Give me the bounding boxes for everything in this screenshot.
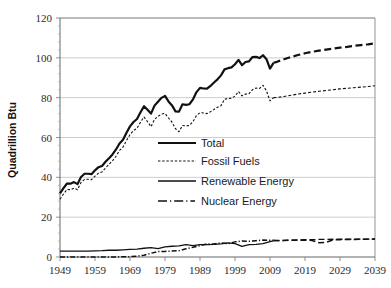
x-tick-label: 1999 [224, 264, 247, 276]
y-axis-tick-labels: 020406080100120 [36, 12, 53, 263]
y-tick-label: 100 [36, 52, 53, 64]
x-tick-label: 1969 [119, 264, 142, 276]
series-line-total-projected [274, 43, 376, 63]
x-tick-label: 1949 [49, 264, 72, 276]
legend-label-nuclear-energy: Nuclear Energy [201, 195, 277, 207]
x-tick-label: 2019 [294, 264, 317, 276]
y-axis-ticks [56, 18, 60, 257]
y-tick-label: 80 [41, 92, 53, 104]
data-series-group [60, 43, 375, 257]
legend: TotalFossil FuelsRenewable EnergyNuclear… [158, 137, 294, 207]
x-tick-label: 2039 [364, 264, 387, 276]
x-axis-tick-labels: 1949195919691979198919992009201920292039 [49, 264, 387, 276]
chart-container: 020406080100120 194919591969197919891999… [0, 0, 391, 288]
series-line-nuclear-energy-historical [60, 240, 274, 257]
series-line-renewable-energy-historical [60, 241, 274, 251]
x-tick-label: 2009 [259, 264, 282, 276]
y-tick-label: 20 [41, 211, 53, 223]
x-axis-ticks [60, 257, 375, 261]
legend-label-fossil-fuels: Fossil Fuels [201, 155, 260, 167]
series-line-renewable-energy-projected [274, 239, 376, 241]
energy-consumption-line-chart: 020406080100120 194919591969197919891999… [0, 0, 391, 288]
x-tick-label: 1979 [154, 264, 177, 276]
x-tick-label: 1959 [84, 264, 107, 276]
x-tick-label: 2029 [329, 264, 352, 276]
series-line-total-historical [60, 55, 274, 193]
series-line-fossil-fuels-projected [274, 86, 376, 98]
gridlines-group [60, 18, 375, 217]
x-tick-label: 1989 [189, 264, 212, 276]
y-axis-title: Quadrillion Btu [6, 102, 18, 178]
y-tick-label: 120 [36, 12, 53, 24]
legend-label-total: Total [201, 137, 224, 149]
y-tick-label: 40 [41, 171, 53, 183]
y-tick-label: 0 [47, 251, 53, 263]
y-tick-label: 60 [41, 132, 53, 144]
legend-label-renewable-energy: Renewable Energy [201, 175, 294, 187]
